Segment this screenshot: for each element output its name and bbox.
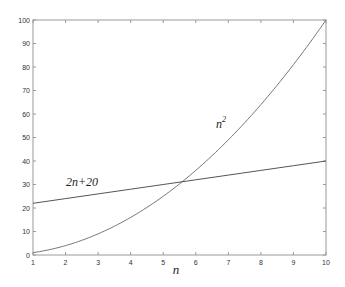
- plot-labels: n2 2n+20 n: [66, 115, 226, 277]
- series-n-squared: [33, 20, 326, 253]
- x-tick-label: 2: [64, 259, 68, 266]
- y-tick-label: 60: [22, 111, 30, 118]
- x-tick-label: 3: [96, 259, 100, 266]
- x-tick-label: 9: [291, 259, 295, 266]
- y-tick-label: 30: [22, 181, 30, 188]
- x-axis-label: n: [173, 262, 180, 277]
- curve-label-n-squared: n2: [216, 115, 226, 131]
- y-tick-label: 70: [22, 87, 30, 94]
- chart: 123456789100102030405060708090100 n2 2n+…: [0, 0, 345, 287]
- y-tick-label: 50: [22, 134, 30, 141]
- y-tick-label: 90: [22, 40, 30, 47]
- x-tick-label: 4: [129, 259, 133, 266]
- x-tick-label: 5: [161, 259, 165, 266]
- y-tick-label: 80: [22, 64, 30, 71]
- y-tick-label: 0: [26, 252, 30, 259]
- plot-frame: [33, 20, 326, 255]
- x-tick-label: 1: [31, 259, 35, 266]
- y-tick-label: 20: [22, 205, 30, 212]
- x-tick-label: 10: [322, 259, 330, 266]
- x-tick-label: 6: [194, 259, 198, 266]
- y-tick-label: 100: [18, 17, 30, 24]
- y-tick-label: 10: [22, 228, 30, 235]
- x-tick-label: 7: [226, 259, 230, 266]
- x-tick-label: 8: [259, 259, 263, 266]
- plot-curves: [33, 20, 326, 253]
- plot-axes: 123456789100102030405060708090100: [18, 17, 330, 267]
- curve-label-2n-plus-20: 2n+20: [66, 175, 98, 189]
- y-tick-label: 40: [22, 158, 30, 165]
